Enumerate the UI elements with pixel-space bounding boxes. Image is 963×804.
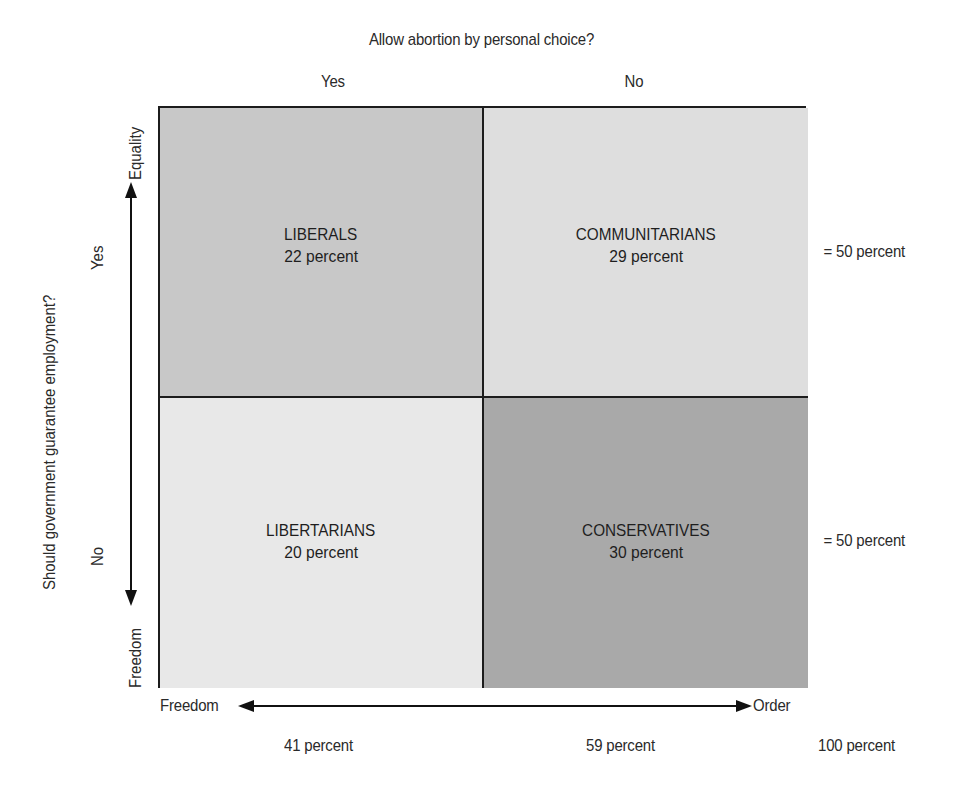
quadrant-percent: 29 percent: [609, 246, 683, 268]
column-label-no: No: [590, 72, 678, 92]
ideology-grid: LIBERALS 22 percent COMMUNITARIANS 29 pe…: [158, 106, 806, 688]
quadrant-conservatives: CONSERVATIVES 30 percent: [484, 398, 808, 688]
horizontal-axis-left-label: Freedom: [160, 696, 219, 716]
quadrant-name: LIBERTARIANS: [266, 520, 375, 542]
row-total-bottom: = 50 percent: [824, 531, 905, 551]
column-question-title: Allow abortion by personal choice?: [58, 30, 905, 50]
horizontal-axis-right-label: Order: [753, 696, 790, 716]
column-total-left: 41 percent: [284, 736, 353, 756]
vertical-axis-top-label: Equality: [126, 127, 146, 180]
row-label-yes: Yes: [88, 246, 108, 270]
horizontal-double-arrow-icon: [238, 698, 752, 714]
row-label-no: No: [88, 547, 108, 566]
column-total-right: 59 percent: [586, 736, 655, 756]
quadrant-name: CONSERVATIVES: [582, 520, 710, 542]
vertical-axis-bottom-label: Freedom: [126, 628, 146, 688]
row-total-top: = 50 percent: [824, 242, 905, 262]
quadrant-name: COMMUNITARIANS: [576, 224, 716, 246]
quadrant-communitarians: COMMUNITARIANS 29 percent: [484, 108, 808, 398]
row-question-title: Should government guarantee employment?: [40, 295, 60, 590]
quadrant-liberals: LIBERALS 22 percent: [160, 108, 484, 398]
column-label-yes: Yes: [289, 72, 377, 92]
quadrant-libertarians: LIBERTARIANS 20 percent: [160, 398, 484, 688]
quadrant-percent: 22 percent: [284, 246, 358, 268]
quadrant-percent: 30 percent: [609, 542, 683, 564]
quadrant-percent: 20 percent: [284, 542, 358, 564]
vertical-double-arrow-icon: [123, 182, 139, 606]
quadrant-name: LIBERALS: [284, 224, 357, 246]
grand-total: 100 percent: [818, 736, 895, 756]
